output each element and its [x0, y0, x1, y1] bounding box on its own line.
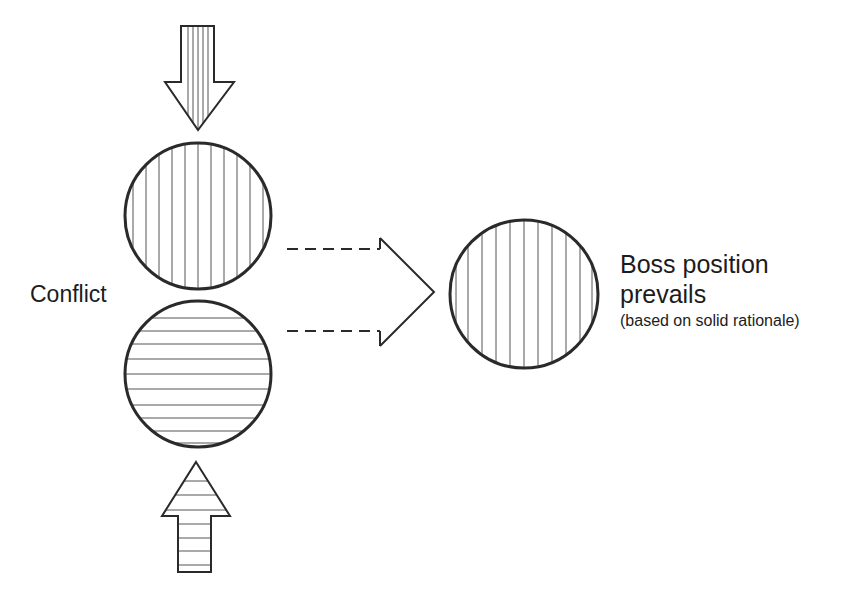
result-circle-vertical-hatch — [450, 218, 598, 370]
outcome-title-line2: prevails — [620, 279, 769, 309]
top-circle-vertical-hatch — [125, 140, 271, 292]
outcome-title-line1: Boss position — [620, 249, 769, 279]
conflict-label: Conflict — [30, 281, 107, 308]
outcome-title: Boss position prevails — [620, 249, 769, 309]
right-arrow-icon — [287, 238, 434, 346]
up-arrow-icon — [150, 462, 240, 572]
down-arrow-icon — [165, 26, 234, 130]
outcome-note: (based on solid rationale) — [620, 312, 800, 330]
bottom-circle-horizontal-hatch — [120, 301, 276, 447]
